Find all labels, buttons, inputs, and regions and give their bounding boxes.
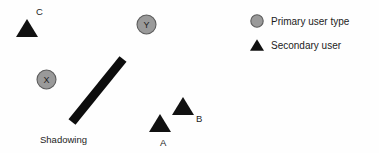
secondary-user-c-group[interactable]: C	[16, 6, 43, 37]
secondary-user-label-b: B	[196, 113, 202, 124]
legend-primary-user-circle-icon	[251, 15, 263, 27]
shadowing-bar	[72, 59, 123, 122]
primary-user-y-glyph: Y	[143, 20, 149, 30]
secondary-user-triangle-c[interactable]	[16, 19, 38, 37]
legend-item-secondary-user: Secondary user	[250, 39, 342, 51]
shadowing-obstacle-group	[72, 59, 123, 122]
legend-item-primary-user: Primary user type	[251, 15, 350, 27]
legend: Primary user type Secondary user	[250, 15, 350, 51]
secondary-user-label-a: A	[160, 137, 167, 148]
primary-user-y-group[interactable]: Y	[137, 15, 156, 34]
secondary-user-triangle-b[interactable]	[172, 97, 194, 115]
primary-user-x-glyph: X	[43, 75, 49, 85]
legend-primary-user-label: Primary user type	[271, 16, 350, 27]
secondary-user-a-group[interactable]: A	[149, 114, 171, 148]
shadowing-caption: Shadowing	[40, 134, 87, 145]
secondary-user-label-c: C	[36, 6, 43, 17]
legend-secondary-user-triangle-icon	[250, 39, 264, 50]
secondary-user-b-group[interactable]: B	[172, 97, 202, 124]
shadowing-scenario-diagram: X Y C A B Shadowing Primary user t	[0, 0, 379, 153]
diagram-canvas: X Y C A B Shadowing Primary user t	[0, 0, 379, 153]
secondary-user-triangle-a[interactable]	[149, 114, 171, 132]
primary-user-x-group[interactable]: X	[37, 70, 56, 89]
legend-secondary-user-label: Secondary user	[271, 40, 342, 51]
